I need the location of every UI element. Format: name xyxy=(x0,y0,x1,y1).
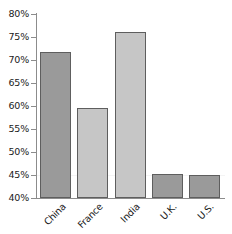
bar-chart: 40%45%50%55%60%65%70%75%80% ChinaFranceI… xyxy=(0,0,232,234)
bar xyxy=(189,175,220,198)
x-axis-tick-label: China xyxy=(24,201,67,234)
y-axis-tick xyxy=(31,198,37,199)
y-axis-tick-label: 40% xyxy=(0,192,29,203)
y-axis-tick-label: 50% xyxy=(0,146,29,157)
y-axis-tick-label: 55% xyxy=(0,123,29,134)
bar xyxy=(115,32,146,198)
y-axis-tick-label: 45% xyxy=(0,169,29,180)
x-axis-tick-label: France xyxy=(61,201,104,234)
x-axis-tick-label: U.S. xyxy=(173,201,216,234)
y-axis-tick-label: 80% xyxy=(0,8,29,19)
x-axis-tick-label: U.K. xyxy=(136,201,179,234)
x-axis-line xyxy=(36,198,225,199)
x-axis-tick-label: India xyxy=(99,201,142,234)
y-axis-tick-label: 70% xyxy=(0,54,29,65)
bar xyxy=(77,108,108,198)
bar xyxy=(152,174,183,198)
bar xyxy=(40,52,71,198)
y-axis-tick-label: 65% xyxy=(0,77,29,88)
y-axis-tick-label: 60% xyxy=(0,100,29,111)
bars-container xyxy=(37,14,223,198)
y-axis-tick-label: 75% xyxy=(0,31,29,42)
